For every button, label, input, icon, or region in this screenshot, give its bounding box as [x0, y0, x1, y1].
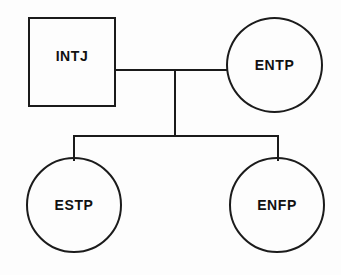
node-intj-label: INTJ — [56, 49, 89, 63]
node-entp-label: ENTP — [255, 58, 295, 72]
node-enfp-label: ENFP — [257, 198, 297, 212]
node-estp-label: ESTP — [55, 198, 94, 212]
genogram-canvas: INTJ ENTP ESTP ENFP — [0, 0, 341, 275]
node-enfp[interactable]: ENFP — [229, 157, 325, 253]
node-entp[interactable]: ENTP — [226, 17, 323, 113]
descent-line — [174, 69, 176, 137]
sibling-bar — [73, 135, 279, 137]
node-intj[interactable]: INTJ — [28, 17, 116, 107]
partner-line — [114, 69, 228, 71]
node-estp[interactable]: ESTP — [26, 157, 122, 253]
